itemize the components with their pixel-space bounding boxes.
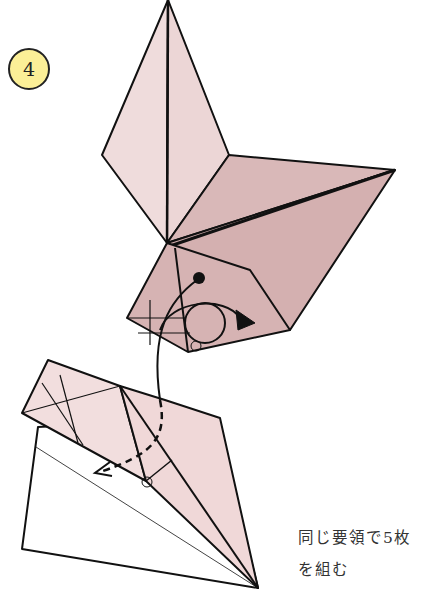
upper-unit	[102, 0, 395, 352]
caption-line-2: を組む	[298, 554, 411, 586]
origami-diagram	[0, 0, 448, 604]
step-number-badge: 4	[8, 48, 50, 90]
instruction-caption: 同じ要領で5枚 を組む	[298, 522, 411, 586]
upper-kite-left	[102, 0, 168, 243]
lower-unit	[22, 360, 258, 588]
caption-line-1: 同じ要領で5枚	[298, 522, 411, 554]
